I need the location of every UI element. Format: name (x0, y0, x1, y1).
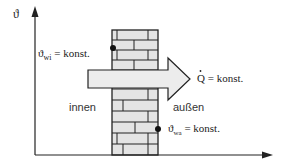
y-axis-label: ϑ (13, 7, 19, 21)
svg-text:Q = konst.: Q = konst. (197, 72, 243, 84)
outside-label: außen (173, 101, 204, 113)
outer-surface-point (155, 126, 161, 132)
wall-heat-conduction-diagram: ϑ ϑwi = konst. Q = konst. innen außen ϑw… (0, 0, 287, 164)
brick-wall (112, 30, 158, 155)
inside-label: innen (69, 101, 96, 113)
heat-flow-label: Q = konst. (197, 70, 243, 84)
inner-temp-label: ϑwi = konst. (38, 47, 90, 62)
x-axis-arrowhead-icon (262, 152, 273, 159)
outer-temp-label: ϑwa = konst. (168, 122, 220, 137)
inner-surface-point (110, 45, 116, 51)
y-axis-arrowhead-icon (32, 6, 39, 17)
